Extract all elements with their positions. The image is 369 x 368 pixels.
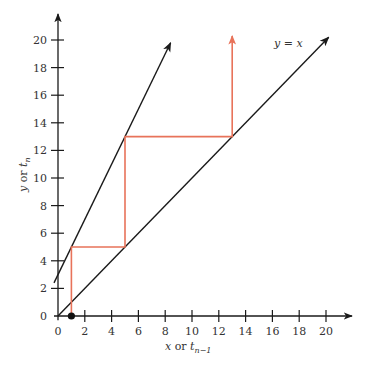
- y-tick-label: 14: [33, 117, 47, 130]
- x-tick-label: 18: [292, 325, 306, 338]
- y-tick-label: 10: [33, 172, 47, 185]
- x-axis-label: x or tn−1: [165, 340, 211, 355]
- y-tick-label: 6: [40, 227, 47, 240]
- x-tick-label: 20: [319, 325, 333, 338]
- y-tick-label: 20: [33, 34, 47, 47]
- x-tick-label: 12: [212, 325, 226, 338]
- x-tick-label: 6: [135, 325, 142, 338]
- start-point: [68, 312, 75, 319]
- y-tick-label: 12: [33, 144, 47, 157]
- y-axis-label: y or tn: [17, 157, 32, 193]
- y-equals-x-label: y = x: [273, 37, 303, 50]
- x-tick-label: 16: [265, 325, 279, 338]
- series: [54, 36, 329, 316]
- points: [68, 312, 75, 319]
- x-tick-label: 2: [81, 325, 88, 338]
- x-tick-label: 10: [185, 325, 199, 338]
- y-tick-label: 0: [40, 310, 47, 323]
- cobweb-chart: 0246810121416182002468101214161820 y = x…: [0, 0, 369, 368]
- x-tick-label: 8: [162, 325, 169, 338]
- x-tick-label: 0: [55, 325, 62, 338]
- x-tick-label: 4: [108, 325, 115, 338]
- identity-line: [58, 37, 329, 316]
- y-tick-label: 4: [40, 255, 47, 268]
- cobweb-path: [71, 36, 232, 316]
- y-tick-label: 8: [40, 200, 47, 213]
- y-tick-label: 16: [33, 89, 47, 102]
- y-tick-label: 18: [33, 62, 47, 75]
- y-tick-label: 2: [40, 282, 47, 295]
- x-tick-label: 14: [239, 325, 253, 338]
